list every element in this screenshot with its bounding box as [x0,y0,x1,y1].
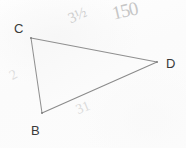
worksheet-scan: C D B 3½ 150 2 31 [0,0,186,148]
triangle-figure [0,0,186,148]
vertex-label-c: C [14,22,24,35]
vertex-point-b [41,112,43,114]
vertex-point-d [156,61,158,63]
vertex-label-b: B [31,124,40,137]
vertex-point-c [30,37,32,39]
vertex-label-d: D [166,57,176,70]
triangle-interior [31,38,157,113]
